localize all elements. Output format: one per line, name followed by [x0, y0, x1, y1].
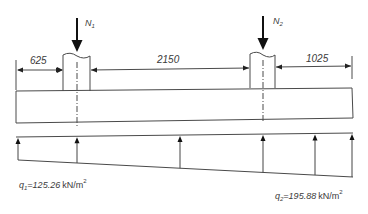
pressure-arrowhead: [313, 134, 318, 140]
load-arrowhead-n2: [258, 38, 269, 50]
column-2: [250, 52, 275, 122]
column-1: [63, 53, 90, 126]
dim-label-2150: 2150: [156, 54, 180, 65]
dim-label-1025: 1025: [306, 53, 329, 64]
dim-label-625: 625: [30, 55, 47, 66]
pressure-arrowhead: [350, 134, 355, 140]
label-q2: q2=195.88kN/m2: [275, 189, 343, 202]
label-n2: N2: [273, 16, 284, 27]
column-load-n2: N2: [258, 16, 284, 50]
label-q1: q1=125.26kN/m2: [19, 178, 87, 191]
dimension-lines: 625 2150 1025: [16, 53, 352, 90]
pressure-arrowhead: [261, 135, 266, 141]
soil-pressure-diagram: [16, 133, 355, 177]
pressure-arrowhead: [178, 136, 183, 142]
column-load-n1: N1: [72, 18, 95, 52]
dim-line-2150: [91, 68, 249, 70]
foundation-diagram: N1 N2 625 2150 1025: [0, 0, 368, 214]
pressure-arrowhead: [16, 138, 21, 144]
load-arrowhead-n1: [72, 40, 83, 52]
dim-line-1025: [276, 66, 351, 67]
pressure-baseline: [16, 133, 353, 137]
foundation-beam: [16, 88, 353, 123]
label-n1: N1: [85, 18, 95, 29]
pressure-arrowhead: [75, 137, 80, 143]
pressure-envelope: [18, 160, 353, 177]
